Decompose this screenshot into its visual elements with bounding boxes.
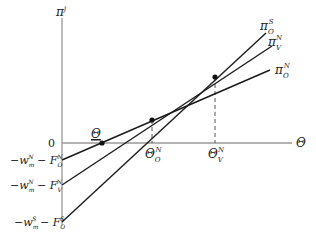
profit-diagram: πj Θ 0 Θ ΘON ΘVN πOS πVN πON −wmN − FON … (0, 0, 316, 240)
intercept-pi-O-N: −wmN − FON (10, 153, 63, 168)
line-pi-V-N (62, 46, 272, 185)
label-pi-O-N: πON (274, 62, 291, 80)
intercept-pi-O-S: −wmS − FOS (14, 215, 65, 230)
theta-V-N-label: ΘVN (208, 146, 225, 164)
point-theta-V-N (212, 74, 217, 79)
intercept-pi-V-N: −wmN − FVN (10, 178, 63, 193)
origin-label: 0 (48, 137, 55, 150)
line-pi-O-N (62, 70, 270, 160)
y-axis-label: πj (55, 5, 67, 19)
x-axis-label: Θ (296, 136, 306, 150)
label-pi-O-S: πOS (259, 18, 274, 36)
point-theta-O-N (149, 117, 154, 122)
theta-O-N-label: ΘON (145, 146, 163, 164)
point-theta-lower (99, 140, 104, 145)
label-pi-V-N: πVN (267, 34, 283, 52)
theta-lower-label: Θ (91, 127, 101, 141)
